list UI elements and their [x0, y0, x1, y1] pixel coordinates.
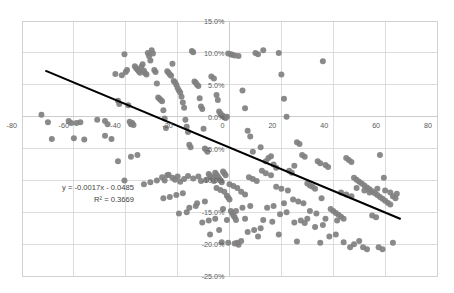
scatter-point [77, 119, 83, 125]
scatter-point [169, 61, 175, 67]
scatter-point [290, 197, 296, 203]
scatter-point [128, 154, 134, 160]
scatter-point [233, 208, 239, 214]
scatter-point [181, 105, 187, 111]
scatter-point [312, 186, 318, 192]
scatter-point [284, 209, 290, 215]
y-tick-label: 5.0% [208, 81, 225, 90]
scatter-point [374, 186, 380, 192]
scatter-point [278, 72, 284, 78]
scatter-point [199, 219, 205, 225]
scatter-point [144, 72, 150, 78]
scatter-point [295, 198, 301, 204]
scatter-point [377, 152, 383, 158]
scatter-point [268, 153, 274, 159]
scatter-point [71, 135, 77, 141]
scatter-point [284, 114, 290, 120]
scatter-point [207, 232, 213, 238]
x-tick-label: 0 [221, 121, 225, 130]
scatter-point [154, 177, 160, 183]
scatter-point [224, 114, 230, 120]
scatter-point [268, 172, 274, 178]
scatter-point [168, 73, 174, 79]
scatter-point [264, 205, 270, 211]
scatter-point [300, 200, 306, 206]
scatter-point [180, 100, 186, 106]
scatter-point [285, 188, 291, 194]
scatter-point [190, 175, 196, 181]
scatter-point [194, 200, 200, 206]
scatter-point [317, 240, 323, 246]
scatter-point [255, 233, 261, 239]
scatter-point [167, 194, 173, 200]
scatter-point [307, 208, 313, 214]
scatter-point [281, 96, 287, 102]
scatter-point [147, 179, 153, 185]
scatter-point [258, 225, 264, 231]
scatter-point [121, 51, 127, 57]
scatter-point [176, 211, 182, 217]
scatter-point [361, 188, 367, 194]
scatter-point [172, 177, 178, 183]
scatter-point [334, 218, 340, 224]
scatter-point [215, 97, 221, 103]
scatter-point [216, 227, 222, 233]
scatter-point [140, 61, 146, 67]
scatter-point [202, 198, 208, 204]
scatter-point [294, 239, 300, 245]
scatter-point [373, 214, 379, 220]
y-tick-label: -10.0% [202, 176, 225, 185]
scatter-point [236, 53, 242, 59]
scatter-point [258, 144, 264, 150]
scatter-point [141, 181, 147, 187]
scatter-point [214, 92, 220, 98]
scatter-point [68, 120, 74, 126]
scatter-point [341, 239, 347, 245]
scatter-point [112, 71, 118, 77]
scatter-point [150, 51, 156, 57]
scatter-point [242, 105, 248, 111]
scatter-point [49, 136, 55, 142]
y-tick-label: 0.0% [208, 113, 225, 122]
scatter-point [281, 200, 287, 206]
scatter-point [250, 149, 256, 155]
scatter-point [326, 233, 332, 239]
x-tick-label: 80 [424, 121, 432, 130]
scatter-point [225, 240, 231, 246]
scatter-point [206, 218, 212, 224]
scatter-point [255, 51, 261, 57]
scatter-point [201, 126, 207, 132]
scatter-point [380, 246, 386, 252]
scatter-point [179, 94, 185, 100]
scatter-point [364, 246, 370, 252]
scatter-point [263, 170, 269, 176]
scatter-point [238, 238, 244, 244]
scatter-point [45, 119, 51, 125]
x-tick-label: -20 [162, 121, 172, 130]
scatter-point [302, 220, 308, 226]
scatter-point [190, 49, 196, 55]
scatter-point [356, 238, 362, 244]
scatter-point [251, 227, 257, 233]
y-tick-label: -5.0% [206, 145, 225, 154]
scatter-point [276, 50, 282, 56]
y-tick-label: 10.0% [204, 49, 225, 58]
scatter-point [341, 216, 347, 222]
scatter-point [239, 205, 245, 211]
y-axis-tick-labels: 15.0%10.0%5.0%0.0%-5.0%-10.0%-15.0%-20.0… [202, 17, 225, 281]
scatter-point [180, 190, 186, 196]
scatter-point [242, 191, 248, 197]
scatter-point [348, 159, 354, 165]
scatter-point [381, 175, 387, 181]
scatter-point [134, 152, 140, 158]
scatter-point [320, 222, 326, 228]
scatter-point [115, 158, 121, 164]
x-tick-label: -60 [58, 121, 68, 130]
scatter-point [354, 185, 360, 191]
scatter-point [94, 117, 100, 123]
scatter-point [232, 240, 238, 246]
scatter-point [260, 47, 266, 53]
scatter-point [297, 141, 303, 147]
scatter-point [277, 211, 283, 217]
scatter-point [367, 189, 373, 195]
